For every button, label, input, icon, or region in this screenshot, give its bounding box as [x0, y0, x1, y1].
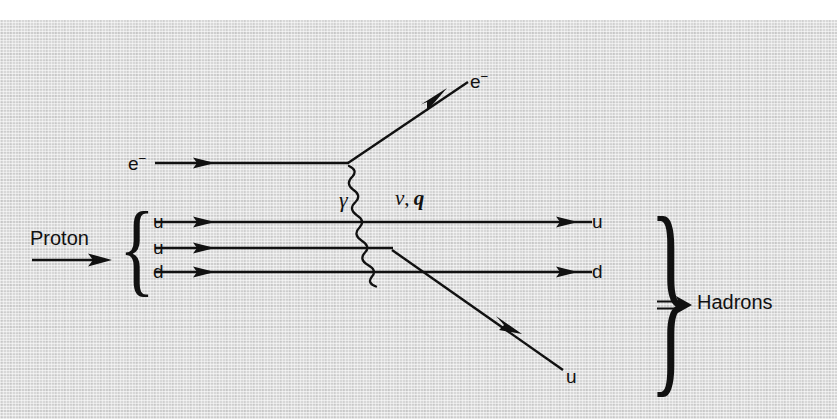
- q-vector-symbol: q: [414, 186, 425, 210]
- feynman-diagram-figure: { } e− e− γ ν, q Proton Hadrons u u d u …: [0, 0, 837, 419]
- label-outgoing-electron: e−: [470, 70, 489, 91]
- label-momentum-transfer: ν, q: [395, 188, 424, 209]
- proton-left-brace: {: [119, 196, 155, 300]
- label-photon: γ: [339, 189, 348, 211]
- label-quark-in-2: u: [153, 238, 164, 257]
- label-quark-in-1: u: [153, 212, 164, 231]
- label-hadrons: Hadrons: [697, 292, 773, 312]
- momentum-separator: ,: [404, 186, 413, 210]
- quark-line-u2-struck: [155, 243, 393, 254]
- incoming-electron-line: [155, 158, 349, 169]
- outgoing-electron-line: [348, 82, 468, 163]
- label-proton: Proton: [30, 228, 89, 248]
- outgoing-electron-symbol: e: [470, 71, 481, 92]
- label-quark-out-2: d: [592, 262, 603, 281]
- hadrons-right-brace: }: [649, 186, 691, 404]
- virtual-photon-wavy-line: [349, 166, 376, 287]
- nu-symbol: ν: [395, 186, 404, 210]
- outgoing-electron-charge: −: [481, 69, 489, 84]
- label-quark-in-3: d: [153, 262, 164, 281]
- quark-line-u1: [155, 217, 592, 228]
- label-incoming-electron: e−: [128, 152, 147, 173]
- struck-quark-outgoing-line: [392, 250, 563, 370]
- left-brace-glyph: {: [119, 190, 155, 305]
- label-quark-out-struck: u: [566, 367, 577, 386]
- label-quark-out-1: u: [592, 212, 603, 231]
- proton-direction-arrow: [32, 253, 112, 266]
- incoming-electron-symbol: e: [128, 153, 139, 174]
- right-brace-glyph: }: [649, 174, 691, 415]
- incoming-electron-charge: −: [139, 151, 147, 166]
